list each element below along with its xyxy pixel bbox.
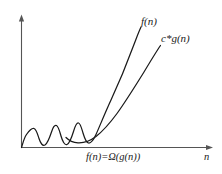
y-axis-arrow-icon: [19, 15, 24, 22]
x-axis-label: n: [204, 152, 209, 163]
omega-notation-figure: f(n) c*g(n) f(n)=Ω(g(n)) n: [0, 0, 222, 174]
x-axis-arrow-icon: [206, 145, 213, 150]
curve-fn: [22, 27, 142, 148]
curve-label-fn: f(n): [141, 16, 157, 27]
curve-label-cgn: c*g(n): [161, 33, 190, 44]
figure-caption: f(n)=Ω(g(n)): [86, 152, 140, 163]
figure-canvas: [0, 0, 222, 174]
x-axis: [21, 145, 213, 150]
y-axis: [19, 15, 24, 148]
